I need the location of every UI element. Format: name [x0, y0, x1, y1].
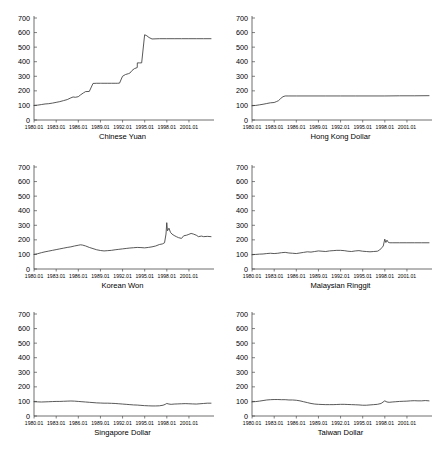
panel-title: Malaysian Ringgit [311, 281, 372, 290]
x-tick-label: 1998.01 [158, 124, 177, 130]
y-tick-label: 500 [18, 192, 30, 201]
x-tick-label: 1992.01 [113, 124, 132, 130]
y-tick-label: 500 [18, 339, 30, 348]
y-tick-label: 200 [236, 235, 248, 244]
x-tick-label: 1995.01 [135, 420, 154, 426]
y-tick-label: 100 [236, 250, 248, 259]
currency-index-chart-grid: 01002003004005006007001980.011983.011986… [0, 0, 436, 455]
chart-panel-taiwan_dollar: 01002003004005006007001980.011983.011986… [218, 300, 436, 455]
chart-panel-hong_kong_dollar: 01002003004005006007001980.011983.011986… [218, 0, 436, 155]
x-tick-label: 1986.01 [287, 420, 306, 426]
y-tick-label: 600 [18, 28, 30, 37]
x-tick-label: 1998.01 [158, 273, 177, 279]
y-tick-label: 600 [236, 177, 248, 186]
series-line [34, 401, 211, 406]
y-tick-label: 500 [236, 43, 248, 52]
y-tick-label: 600 [18, 324, 30, 333]
x-tick-label: 1992.01 [331, 420, 350, 426]
x-tick-label: 1998.01 [376, 124, 395, 130]
y-tick-label: 100 [18, 397, 30, 406]
panel-title: Korean Won [101, 281, 143, 290]
x-tick-label: 2001.01 [180, 273, 199, 279]
x-tick-label: 1980.01 [243, 420, 262, 426]
x-tick-label: 1983.01 [265, 273, 284, 279]
y-tick-label: 400 [236, 206, 248, 215]
x-tick-label: 1995.01 [135, 273, 154, 279]
y-tick-label: 200 [18, 86, 30, 95]
y-tick-label: 400 [18, 206, 30, 215]
x-tick-label: 1986.01 [69, 420, 88, 426]
x-tick-label: 1992.01 [331, 273, 350, 279]
x-tick-label: 1980.01 [243, 124, 262, 130]
y-tick-label: 300 [236, 221, 248, 230]
y-tick-label: 300 [18, 72, 30, 81]
x-tick-label: 1983.01 [47, 420, 66, 426]
y-tick-label: 500 [236, 339, 248, 348]
x-tick-label: 1989.01 [91, 420, 110, 426]
x-tick-label: 1995.01 [353, 273, 372, 279]
x-tick-label: 2001.01 [398, 273, 417, 279]
y-tick-label: 100 [18, 101, 30, 110]
x-tick-label: 1980.01 [25, 420, 44, 426]
y-tick-label: 600 [236, 324, 248, 333]
x-tick-label: 1983.01 [265, 420, 284, 426]
y-tick-label: 700 [18, 14, 30, 23]
y-tick-label: 300 [18, 368, 30, 377]
y-tick-label: 100 [236, 397, 248, 406]
y-tick-label: 300 [236, 72, 248, 81]
x-tick-label: 1992.01 [113, 420, 132, 426]
panel-title: Hong Kong Dollar [311, 132, 371, 141]
series-line [252, 400, 429, 406]
x-tick-label: 1992.01 [113, 273, 132, 279]
x-tick-label: 1989.01 [91, 124, 110, 130]
panel-title: Chinese Yuan [99, 132, 146, 141]
panel-title: Singapore Dollar [94, 428, 151, 437]
x-tick-label: 2001.01 [398, 420, 417, 426]
chart-panel-singapore_dollar: 01002003004005006007001980.011983.011986… [0, 300, 218, 455]
x-tick-label: 1980.01 [25, 273, 44, 279]
x-tick-label: 2001.01 [180, 124, 199, 130]
y-tick-label: 700 [18, 310, 30, 319]
x-tick-label: 1980.01 [25, 124, 44, 130]
y-tick-label: 300 [236, 368, 248, 377]
chart-panel-korean_won: 01002003004005006007001980.011983.011986… [0, 155, 218, 300]
x-tick-label: 1986.01 [287, 273, 306, 279]
x-tick-label: 1992.01 [331, 124, 350, 130]
chart-panel-chinese_yuan: 01002003004005006007001980.011983.011986… [0, 0, 218, 155]
series-line [252, 96, 429, 106]
x-tick-label: 1995.01 [135, 124, 154, 130]
y-tick-label: 100 [236, 101, 248, 110]
x-tick-label: 1989.01 [91, 273, 110, 279]
x-tick-label: 1998.01 [376, 420, 395, 426]
x-tick-label: 1995.01 [353, 124, 372, 130]
y-tick-label: 700 [236, 310, 248, 319]
y-tick-label: 500 [236, 192, 248, 201]
y-tick-label: 600 [236, 28, 248, 37]
x-tick-label: 1986.01 [69, 124, 88, 130]
y-tick-label: 400 [236, 353, 248, 362]
y-tick-label: 200 [236, 86, 248, 95]
x-tick-label: 1989.01 [309, 273, 328, 279]
series-line [34, 223, 211, 255]
y-tick-label: 700 [236, 14, 248, 23]
series-line [34, 35, 211, 106]
series-line [252, 239, 429, 255]
chart-panel-malaysian_ringgit: 01002003004005006007001980.011983.011986… [218, 155, 436, 300]
x-tick-label: 1986.01 [287, 124, 306, 130]
y-tick-label: 700 [18, 163, 30, 172]
x-tick-label: 1983.01 [265, 124, 284, 130]
x-tick-label: 1983.01 [47, 273, 66, 279]
y-tick-label: 600 [18, 177, 30, 186]
x-tick-label: 2001.01 [398, 124, 417, 130]
x-tick-label: 1989.01 [309, 420, 328, 426]
y-tick-label: 100 [18, 250, 30, 259]
x-tick-label: 2001.01 [180, 420, 199, 426]
x-tick-label: 1983.01 [47, 124, 66, 130]
x-tick-label: 1986.01 [69, 273, 88, 279]
x-tick-label: 1989.01 [309, 124, 328, 130]
y-tick-label: 200 [18, 382, 30, 391]
y-tick-label: 200 [236, 382, 248, 391]
y-tick-label: 400 [236, 57, 248, 66]
y-tick-label: 400 [18, 57, 30, 66]
y-tick-label: 400 [18, 353, 30, 362]
